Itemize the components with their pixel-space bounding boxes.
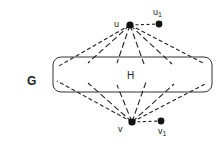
edge-u-u1 xyxy=(130,24,159,25)
label-v: v xyxy=(118,124,123,134)
edges-v-to-h xyxy=(57,81,205,122)
graph-label-g: G xyxy=(27,74,36,88)
vertex-v xyxy=(128,118,135,125)
graph-diagram: G H u u1 v v1 xyxy=(0,0,224,147)
label-v1-sub: 1 xyxy=(163,130,167,137)
label-u: u xyxy=(114,19,119,29)
edge-v-v1 xyxy=(132,121,161,122)
subgraph-label-h: H xyxy=(127,70,134,81)
label-v1: v1 xyxy=(158,126,167,137)
edges-u-to-h xyxy=(57,25,205,67)
vertex-v1 xyxy=(158,118,165,125)
label-u1-sub: 1 xyxy=(158,11,162,18)
vertex-u xyxy=(126,21,133,28)
vertex-u1 xyxy=(156,21,163,28)
label-u1: u1 xyxy=(153,7,162,18)
